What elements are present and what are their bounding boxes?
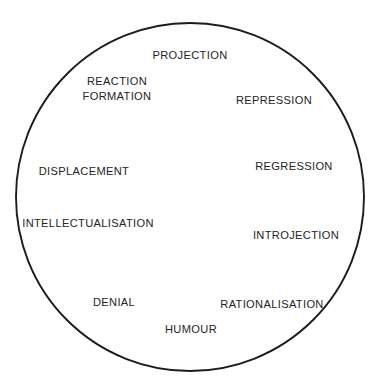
sector-label-line: FORMATION (83, 89, 152, 101)
sector-label-regression: REGRESSION (255, 160, 332, 172)
sector-label-line: RATIONALISATION (220, 298, 323, 310)
sector-label-repression: REPRESSION (236, 94, 312, 106)
wheel-outer-circle (16, 23, 364, 371)
sector-label-line: REGRESSION (255, 160, 332, 172)
sector-label-rationalisation: RATIONALISATION (220, 298, 323, 310)
sector-label-displacement: DISPLACEMENT (39, 165, 130, 177)
sector-label-line: HUMOUR (165, 323, 217, 335)
sector-label-line: INTELLECTUALISATION (22, 217, 154, 229)
defence-mechanisms-wheel-figure: PROJECTIONREPRESSIONREGRESSIONINTROJECTI… (0, 0, 377, 392)
sector-label-line: INTROJECTION (253, 229, 339, 241)
sector-label-humour: HUMOUR (165, 323, 217, 335)
sector-label-intellectualisation: INTELLECTUALISATION (22, 217, 154, 229)
sector-label-line: REPRESSION (236, 94, 312, 106)
sector-label-line: REACTION (87, 74, 147, 86)
sector-label-line: DISPLACEMENT (39, 165, 130, 177)
sector-label-line: PROJECTION (153, 49, 228, 61)
sector-label-projection: PROJECTION (153, 49, 228, 61)
sector-label-introjection: INTROJECTION (253, 229, 339, 241)
sector-label-line: DENIAL (93, 296, 135, 308)
sector-label-denial: DENIAL (93, 296, 135, 308)
wheel-diagram: PROJECTIONREPRESSIONREGRESSIONINTROJECTI… (0, 0, 377, 392)
